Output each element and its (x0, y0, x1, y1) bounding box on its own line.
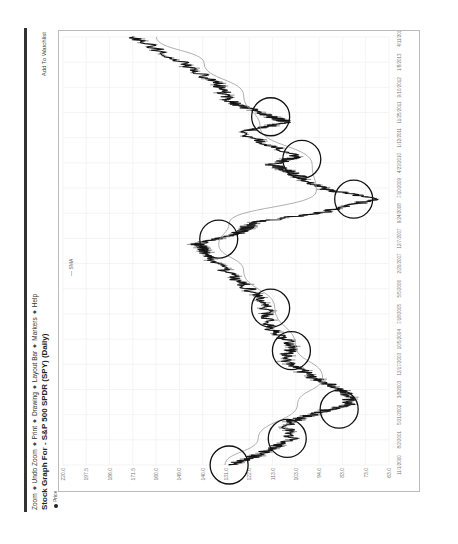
chart-title: Stock Graph For - S&P 500 SPDR (SPY) (Da… (40, 334, 49, 510)
menu-separator-icon: ◆ (31, 419, 37, 423)
x-tick-label: 12/17/2003 (397, 353, 402, 376)
stock-graph-panel: Zoom ◆ Undo Zoom ◆ Print ◆ Drawing ◆ Lay… (24, 28, 435, 512)
menu-item-markers[interactable]: Markers (31, 317, 38, 340)
y-tick-label: 113.0 (270, 468, 276, 480)
x-tick-label: 3/8/2003 (397, 380, 402, 398)
menu-separator-icon: ◆ (31, 385, 37, 389)
y-tick-label: 83.0 (339, 468, 345, 478)
price-chart-svg: 220.0197.5186.0171.5160.0149.0140.0131.0… (59, 31, 419, 491)
annotation-circle (335, 180, 373, 218)
y-tick-label: 186.0 (107, 468, 113, 481)
add-to-watchlist-link[interactable]: Add To Watchlist (41, 32, 47, 76)
x-tick-label: 7/18/2005 (397, 303, 402, 324)
y-tick-label: 149.0 (176, 468, 182, 481)
x-tick-label: 4/11/2014 (397, 31, 402, 47)
menu-separator-icon: ◆ (31, 486, 37, 490)
y-tick-label: 140.0 (200, 468, 206, 481)
y-tick-label: 131.0 (223, 468, 229, 481)
menu-separator-icon: ◆ (31, 442, 37, 446)
x-tick-label: 1/8/2013 (397, 53, 402, 71)
menu-bar: Zoom ◆ Undo Zoom ◆ Print ◆ Drawing ◆ Lay… (28, 294, 40, 510)
top-border (24, 28, 27, 512)
menu-item-undo-zoom[interactable]: Undo Zoom (31, 449, 38, 483)
menu-item-help[interactable]: Help (31, 294, 38, 307)
y-tick-label: 160.0 (153, 468, 159, 481)
sma-line (156, 37, 322, 465)
price-legend-label: Price (52, 491, 58, 502)
x-tick-label: 11/25/2011 (397, 101, 402, 123)
x-tick-label: 11/1/2000 (397, 455, 402, 475)
y-tick-label: 63.0 (386, 468, 392, 478)
price-line (129, 37, 377, 465)
y-tick-label: 94.0 (316, 468, 322, 478)
x-tick-label: 7/10/2009 (397, 178, 402, 199)
x-tick-label: 5/21/2002 (397, 404, 402, 425)
y-tick-label: 73.0 (363, 468, 369, 478)
price-legend: Price (52, 491, 58, 508)
annotation-circle (320, 390, 358, 428)
x-tick-label: 8/2/2001 (397, 431, 402, 449)
menu-item-drawing[interactable]: Drawing (31, 392, 38, 416)
rotated-chart-stage: Zoom ◆ Undo Zoom ◆ Print ◆ Drawing ◆ Lay… (24, 28, 435, 512)
y-tick-label: 103.0 (293, 468, 299, 481)
y-tick-label: 171.5 (130, 468, 136, 481)
x-tick-label: 9/24/2008 (397, 203, 402, 224)
x-tick-label: 2/20/2007 (397, 253, 402, 274)
x-tick-label: 4/23/2010 (397, 152, 402, 173)
x-tick-label: 10/5/2004 (397, 329, 402, 350)
menu-separator-icon: ◆ (31, 344, 37, 348)
x-tick-label: 5/5/2006 (397, 280, 402, 298)
x-tick-label: 9/10/2012 (397, 77, 402, 98)
menu-item-zoom[interactable]: Zoom (31, 493, 38, 510)
x-tick-label: 12/7/2007 (397, 228, 402, 249)
x-tick-label: 1/12/2011 (397, 127, 402, 147)
menu-separator-icon: ◆ (31, 310, 37, 314)
y-tick-label: 220.0 (60, 468, 66, 481)
menu-item-layout-bar[interactable]: Layout Bar (31, 351, 38, 382)
y-tick-label: 197.5 (83, 468, 89, 481)
price-legend-dot-icon (54, 504, 58, 508)
plot-area[interactable]: 220.0197.5186.0171.5160.0149.0140.0131.0… (58, 30, 420, 492)
menu-item-print[interactable]: Print (31, 426, 38, 439)
